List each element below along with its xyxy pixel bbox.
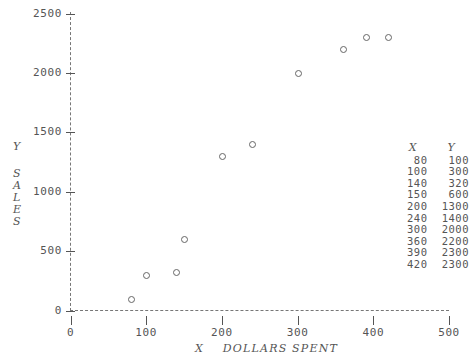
- data-point: [143, 272, 150, 279]
- table-cell-y: 2000: [427, 224, 469, 236]
- x-axis-title: X DOLLARS SPENT: [195, 342, 338, 355]
- x-tick-label-300: 300: [268, 326, 328, 339]
- data-point: [340, 46, 347, 53]
- x-tick-200: [222, 316, 223, 325]
- table-cell-x: 420: [398, 259, 427, 271]
- x-tick-0: [71, 316, 72, 325]
- x-tick-label-400: 400: [343, 326, 403, 339]
- data-point: [219, 153, 226, 160]
- data-point: [295, 70, 302, 77]
- table-cell-x: 200: [398, 201, 427, 213]
- data-point: [363, 34, 370, 41]
- y-tick-1000: [66, 192, 75, 193]
- y-tick-2000: [66, 73, 75, 74]
- y-tick-0: [66, 311, 75, 312]
- x-tick-label-500: 500: [419, 326, 469, 339]
- y-tick-2500: [66, 14, 75, 15]
- data-point: [173, 269, 180, 276]
- x-tick-label-200: 200: [192, 326, 252, 339]
- y-tick-label-0: 0: [20, 304, 62, 317]
- y-tick-label-2000: 2000: [20, 66, 62, 79]
- table-row: 2001300: [398, 201, 469, 213]
- table-header-y: Y: [427, 142, 469, 155]
- scatter-plot-canvas: 05001000150020002500 0100200300400500 YS…: [0, 0, 469, 364]
- y-axis-title-letter-0: Y: [13, 140, 20, 153]
- table-cell-x: 300: [398, 224, 427, 236]
- table-body: 8010010030014032015060020013002401400300…: [398, 155, 469, 271]
- x-tick-400: [373, 316, 374, 325]
- table-row: 4202300: [398, 259, 469, 271]
- x-axis-line: [70, 310, 449, 311]
- table-row: 3002000: [398, 224, 469, 236]
- x-tick-label-100: 100: [116, 326, 176, 339]
- table-cell-y: 2300: [427, 259, 469, 271]
- x-tick-300: [298, 316, 299, 325]
- data-point: [385, 34, 392, 41]
- table-header-x: X: [398, 142, 427, 155]
- data-point: [181, 236, 188, 243]
- y-axis-title-letter-5: S: [13, 215, 21, 228]
- data-point: [128, 296, 135, 303]
- y-tick-500: [66, 251, 75, 252]
- table-cell-y: 1300: [427, 201, 469, 213]
- x-tick-label-0: 0: [41, 326, 101, 339]
- y-tick-1500: [66, 132, 75, 133]
- x-tick-500: [449, 316, 450, 325]
- data-point: [249, 141, 256, 148]
- x-tick-100: [146, 316, 147, 325]
- y-tick-label-500: 500: [20, 244, 62, 257]
- table-header-row: X Y: [398, 142, 469, 155]
- y-tick-label-2500: 2500: [20, 7, 62, 20]
- y-tick-label-1000: 1000: [20, 185, 62, 198]
- data-value-table: X Y 801001003001403201506002001300240140…: [398, 142, 469, 271]
- y-axis-line: [70, 12, 71, 311]
- y-tick-label-1500: 1500: [20, 125, 62, 138]
